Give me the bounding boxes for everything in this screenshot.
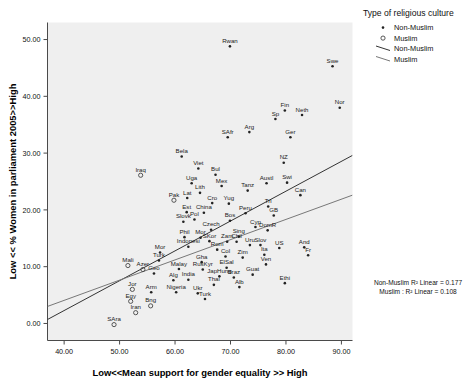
legend-marker-line-non-muslim	[376, 46, 390, 51]
data-point-label: Cro	[207, 194, 217, 201]
x-tick-label: 50.00	[111, 347, 129, 356]
x-tick-label: 70.00	[222, 347, 240, 356]
data-point-non-muslim	[193, 218, 196, 221]
legend-label: Non-Muslim	[394, 23, 433, 32]
legend-label: Muslim	[394, 34, 417, 43]
data-point-label: Mali	[122, 256, 133, 263]
data-point-non-muslim	[254, 226, 257, 229]
data-point-label: Gha	[196, 253, 208, 260]
legend-marker-line-muslim	[376, 57, 390, 62]
data-point-non-muslim	[265, 263, 268, 266]
data-point-label: Bul	[211, 165, 220, 172]
data-point-label: India	[182, 270, 196, 277]
r-squared-annotation: Non-Muslim R² Linear = 0.177	[374, 279, 462, 286]
data-point-non-muslim	[301, 114, 304, 117]
data-point-label: US	[275, 239, 283, 246]
data-point-non-muslim	[203, 211, 206, 214]
data-point-non-muslim	[251, 273, 254, 276]
data-point-label: Malay	[171, 260, 188, 267]
data-point-label: Est	[182, 203, 191, 210]
data-point-label: Egy	[125, 292, 136, 299]
data-point-label: Turk	[199, 290, 212, 297]
data-point-non-muslim	[246, 189, 249, 192]
legend-label: Muslim	[394, 55, 417, 64]
y-tick-label: 40.00	[23, 92, 41, 101]
data-point-non-muslim	[278, 247, 281, 250]
data-point-non-muslim	[220, 185, 223, 188]
data-point-label: Arg	[245, 123, 254, 130]
data-point-non-muslim	[229, 219, 232, 222]
data-point-label: And	[299, 238, 310, 245]
y-tick-label: 20.00	[23, 206, 41, 215]
data-point-non-muslim	[241, 256, 244, 259]
data-point-non-muslim	[289, 136, 292, 139]
data-point-label: GB	[269, 206, 278, 213]
data-point-non-muslim	[299, 194, 302, 197]
data-point-label: Geo	[148, 264, 160, 271]
data-point-label: Turk	[153, 251, 166, 258]
data-point-non-muslim	[284, 109, 287, 112]
data-point-non-muslim	[248, 131, 251, 134]
data-point-label: Viet	[193, 159, 204, 166]
data-point-non-muslim	[286, 181, 289, 184]
data-point-label: Austl	[260, 174, 274, 181]
data-point-label: Jor	[128, 280, 136, 287]
data-point-non-muslim	[216, 248, 219, 251]
x-tick-label: 90.00	[332, 347, 350, 356]
data-point-non-muslim	[228, 202, 231, 205]
data-point-non-muslim	[182, 221, 185, 224]
data-point-non-muslim	[229, 45, 232, 48]
data-point-label: Mor	[155, 243, 166, 250]
data-point-non-muslim	[153, 272, 156, 275]
data-point-label: SAfr	[222, 128, 234, 135]
data-point-non-muslim	[158, 259, 161, 262]
data-point-label: Thai	[208, 275, 220, 282]
data-point-label: Neth	[296, 106, 309, 113]
scatterplot-figure: 40.0050.0060.0070.0080.0090.000.0010.002…	[0, 0, 466, 384]
legend-title: Type of religious culture	[363, 8, 454, 18]
data-point-label: DomR	[259, 221, 277, 228]
data-point-label: Tanz	[241, 181, 254, 188]
r-squared-annotation: Muslim : R² Linear = 0.108	[379, 288, 457, 295]
data-point-label: Can	[295, 186, 306, 193]
data-point-label: Fr	[305, 246, 311, 253]
data-point-label: Bng	[145, 296, 156, 303]
data-point-non-muslim	[175, 291, 178, 294]
data-point-label: Azer	[137, 260, 150, 267]
chart-canvas: 40.0050.0060.0070.0080.0090.000.0010.002…	[0, 0, 466, 384]
data-point-non-muslim	[187, 278, 190, 281]
data-point-label: Arm	[146, 283, 157, 290]
legend-label: Non-Muslim	[394, 44, 433, 53]
data-point-non-muslim	[214, 173, 217, 176]
data-point-non-muslim	[150, 291, 153, 294]
data-point-non-muslim	[190, 182, 193, 185]
data-point-label: Lat	[183, 189, 192, 196]
data-point-label: Bela	[176, 147, 189, 154]
data-point-non-muslim	[282, 161, 285, 164]
data-point-label: Alg	[169, 271, 178, 278]
data-point-label: ElSal	[220, 258, 234, 265]
data-point-label: Swe	[327, 57, 339, 64]
data-point-label: Alb	[235, 278, 244, 285]
data-point-non-muslim	[265, 182, 268, 185]
data-point-non-muslim	[201, 268, 204, 271]
y-axis-title: Low << % Women in parliament 2005>>High	[7, 83, 18, 279]
data-point-label: Ethi	[280, 274, 291, 281]
data-point-label: SAra	[107, 315, 121, 322]
data-point-non-muslim	[238, 286, 241, 289]
data-point-non-muslim	[249, 244, 252, 247]
data-point-non-muslim	[331, 65, 334, 68]
data-point-non-muslim	[187, 246, 190, 249]
data-point-non-muslim	[338, 106, 341, 109]
data-point-label: Uga	[186, 174, 198, 181]
data-point-label: Indonesi	[177, 237, 200, 244]
data-point-non-muslim	[284, 282, 287, 285]
data-point-non-muslim	[224, 255, 227, 258]
data-point-non-muslim	[204, 298, 207, 301]
legend-marker-muslim-point	[381, 36, 385, 40]
data-point-label: Mex	[216, 177, 228, 184]
y-tick-label: 50.00	[23, 35, 41, 44]
data-point-non-muslim	[272, 214, 275, 217]
data-point-label: Slov	[255, 236, 268, 243]
data-point-label: Rwan	[222, 37, 238, 44]
